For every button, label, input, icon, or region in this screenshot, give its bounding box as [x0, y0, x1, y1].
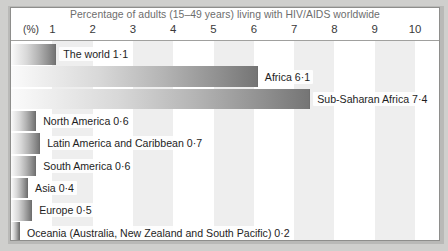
bar	[11, 156, 36, 177]
bar	[11, 89, 310, 110]
bar-row: The world 1·1	[11, 44, 439, 65]
chart-title: Percentage of adults (15–49 years) livin…	[11, 9, 439, 20]
bar	[11, 111, 36, 132]
bar	[11, 222, 20, 240]
bar-row: Africa 6·1	[11, 66, 439, 87]
bar-label: Asia 0·4	[31, 181, 77, 195]
x-axis-tick-6: 6	[251, 23, 257, 35]
x-axis-tick-3: 3	[130, 23, 136, 35]
bar-row: Asia 0·4	[11, 178, 439, 199]
bar-row: North America 0·6	[11, 111, 439, 132]
x-axis-tick-row: (%) 12345678910	[11, 23, 439, 40]
bar	[11, 200, 32, 221]
bar-row: Europe 0·5	[11, 200, 439, 221]
bar-label: Oceania (Australia, New Zealand and Sout…	[23, 226, 293, 240]
bar-label: Africa 6·1	[261, 70, 313, 84]
x-axis-tick-1: 1	[49, 23, 55, 35]
chart-header: Percentage of adults (15–49 years) livin…	[11, 8, 439, 41]
bar	[11, 133, 40, 154]
x-axis-tick-10: 10	[409, 23, 422, 35]
plot-area: The world 1·1Africa 6·1Sub-Saharan Afric…	[11, 41, 439, 240]
bar	[11, 44, 56, 65]
x-axis-tick-8: 8	[331, 23, 337, 35]
x-axis-tick-7: 7	[291, 23, 297, 35]
bar-label: South America 0·6	[39, 159, 133, 173]
bar-row: Oceania (Australia, New Zealand and Sout…	[11, 222, 439, 240]
bar-label: The world 1·1	[59, 47, 131, 61]
x-axis-tick-4: 4	[170, 23, 176, 35]
bar-label: Sub-Saharan Africa 7·4	[313, 92, 430, 106]
bar-row: Latin America and Caribbean 0·7	[11, 133, 439, 154]
x-axis-tick-9: 9	[372, 23, 378, 35]
x-axis-tick-2: 2	[89, 23, 95, 35]
x-axis-tick-5: 5	[210, 23, 216, 35]
bar	[11, 178, 28, 199]
figure-container: Percentage of adults (15–49 years) livin…	[0, 0, 448, 251]
bar-row: Sub-Saharan Africa 7·4	[11, 89, 439, 110]
bar-label: North America 0·6	[39, 114, 131, 128]
bar	[11, 66, 258, 87]
bar-label: Europe 0·5	[35, 203, 94, 217]
bar-row: South America 0·6	[11, 156, 439, 177]
chart-card: Percentage of adults (15–49 years) livin…	[10, 7, 440, 241]
bar-label: Latin America and Caribbean 0·7	[43, 136, 205, 150]
x-axis-unit-label: (%)	[23, 24, 39, 35]
